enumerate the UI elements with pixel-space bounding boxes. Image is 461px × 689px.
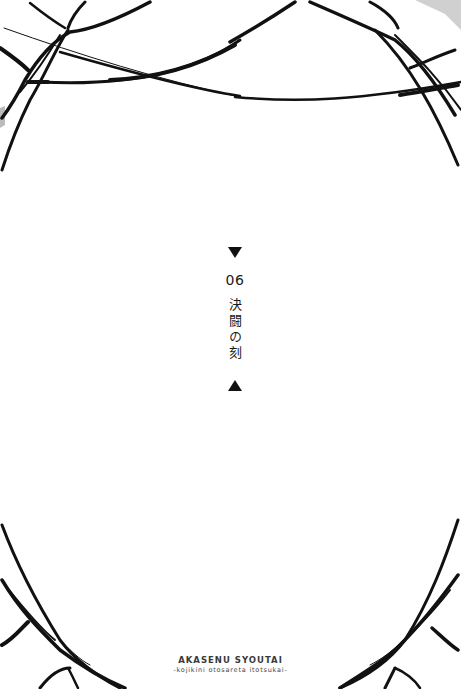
thread-web-top-right-icon — [230, 2, 461, 165]
corner-shade-top-right — [415, 0, 461, 30]
chapter-heading: 06 決闘の刻 — [200, 243, 270, 391]
up-triangle-icon — [228, 380, 242, 391]
series-footer: AKASENU SYOUTAI -kojikini otosareta itot… — [0, 655, 461, 674]
chapter-number: 06 — [226, 272, 245, 288]
series-title: AKASENU SYOUTAI — [0, 655, 461, 665]
manga-chapter-title-page: 06 決闘の刻 AKASENU SYOUTAI -kojikini otosar… — [0, 0, 461, 689]
series-subtitle: -kojikini otosareta itotsukai- — [0, 666, 461, 674]
chapter-title: 決闘の刻 — [229, 298, 242, 362]
down-triangle-icon — [228, 247, 242, 258]
thread-web-top-left-icon — [0, 2, 240, 170]
